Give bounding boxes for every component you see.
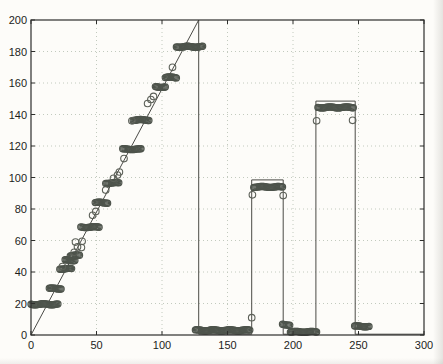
figure-canvas: 0501001502002503000204060801001201401601…: [0, 0, 443, 364]
y-tick-label: 20: [15, 298, 27, 310]
y-tick-label: 40: [15, 266, 27, 278]
marker-cluster: [173, 43, 205, 50]
x-tick-label: 200: [284, 339, 302, 351]
y-tick-label: 160: [9, 77, 27, 89]
marker-cluster: [192, 327, 253, 334]
marker-cluster: [152, 84, 168, 91]
x-tick-label: 150: [218, 339, 236, 351]
marker-cluster: [251, 183, 286, 190]
plot-background: [0, 0, 443, 364]
marker-cluster: [120, 146, 144, 153]
y-tick-label: 60: [15, 235, 27, 247]
x-tick-label: 50: [90, 339, 102, 351]
y-tick-label: 140: [9, 109, 27, 121]
marker-cluster: [46, 285, 64, 292]
marker-cluster: [279, 321, 292, 328]
y-tick-label: 0: [21, 329, 27, 341]
y-tick-label: 100: [9, 172, 27, 184]
x-tick-label: 100: [153, 339, 171, 351]
marker-cluster: [78, 224, 102, 231]
marker-cluster: [103, 179, 122, 186]
marker-cluster: [92, 199, 111, 206]
marker-cluster: [28, 301, 61, 308]
y-tick-label: 200: [9, 14, 27, 26]
x-tick-label: 0: [28, 339, 34, 351]
marker-cluster: [315, 104, 357, 111]
y-tick-label: 80: [15, 203, 27, 215]
marker-cluster: [352, 323, 373, 330]
marker-cluster: [162, 74, 179, 81]
x-tick-label: 250: [349, 339, 367, 351]
scatter-plot: 0501001502002503000204060801001201401601…: [0, 0, 443, 364]
marker-cluster: [287, 328, 319, 335]
x-tick-label: 300: [415, 339, 433, 351]
y-tick-label: 120: [9, 140, 27, 152]
y-tick-label: 180: [9, 46, 27, 58]
